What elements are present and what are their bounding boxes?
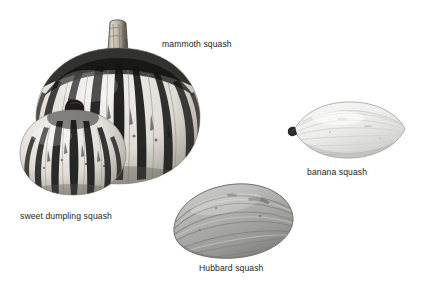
specimen-sweet-dumpling-squash	[14, 96, 132, 202]
label-banana-squash: banana squash	[307, 167, 367, 177]
specimen-hubbard-squash	[160, 178, 300, 262]
label-sweet-dumpling-squash: sweet dumpling squash	[20, 211, 112, 221]
label-mammoth-squash: mammoth squash	[162, 39, 232, 49]
squash-varieties-figure: mammoth squash sweet dumpling squash ban…	[0, 0, 421, 285]
banana-body-shape	[294, 102, 406, 166]
specimen-banana-squash	[286, 96, 412, 164]
hubbard-body-shape	[166, 184, 300, 266]
sweet-dumpling-body-shape	[18, 107, 128, 212]
label-hubbard-squash: Hubbard squash	[199, 263, 263, 273]
